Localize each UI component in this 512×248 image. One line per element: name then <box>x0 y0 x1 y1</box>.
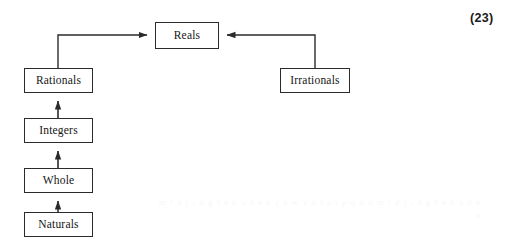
node-irrationals-label: Irrationals <box>290 75 339 87</box>
node-irrationals: Irrationals <box>280 68 350 93</box>
edge-rationals-to-reals <box>58 35 147 68</box>
node-naturals: Naturals <box>24 212 93 237</box>
node-whole-label: Whole <box>43 175 75 187</box>
node-reals-label: Reals <box>174 30 201 42</box>
node-reals: Reals <box>155 22 219 49</box>
node-whole: Whole <box>24 168 93 193</box>
node-integers-label: Integers <box>39 125 78 137</box>
node-integers: Integers <box>24 118 93 143</box>
edge-irrationals-to-reals <box>227 35 315 68</box>
page-number-label: (23) <box>470 11 493 25</box>
node-rationals: Rationals <box>24 68 93 93</box>
node-rationals-label: Rationals <box>36 75 81 87</box>
node-naturals-label: Naturals <box>38 219 79 231</box>
diagram-canvas: Reals Rationals Irrationals Integers Who… <box>0 0 512 248</box>
